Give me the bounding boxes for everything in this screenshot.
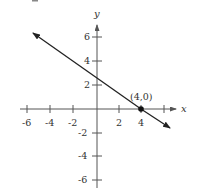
y-tick-label: -2 bbox=[78, 127, 87, 138]
graph-canvas: y x -6 -4 -2 2 4 6 4 2 -2 -4 -6 (4,0) bbox=[0, 0, 197, 196]
x-tick-label: -6 bbox=[22, 117, 31, 128]
x-tick-label: -2 bbox=[68, 117, 77, 128]
clipped-text-fragment bbox=[32, 0, 38, 2]
y-tick-label: 4 bbox=[84, 55, 90, 66]
line-lower-segment bbox=[141, 109, 170, 128]
point-4-0 bbox=[138, 106, 144, 112]
coordinate-graph: y x -6 -4 -2 2 4 6 4 2 -2 -4 -6 (4,0) bbox=[0, 0, 197, 196]
point-label: (4,0) bbox=[130, 91, 153, 102]
y-tick-label: 6 bbox=[84, 31, 90, 42]
x-tick-label: 4 bbox=[138, 117, 144, 128]
y-axis bbox=[92, 25, 102, 188]
y-tick-label: -4 bbox=[78, 150, 87, 161]
x-tick-label: -4 bbox=[45, 117, 54, 128]
y-axis-label: y bbox=[93, 8, 100, 19]
y-tick-label: -6 bbox=[78, 174, 87, 185]
line-upper-segment bbox=[33, 33, 141, 109]
x-axis bbox=[20, 105, 176, 113]
x-tick-label: 2 bbox=[116, 117, 122, 128]
x-axis-label: x bbox=[181, 103, 187, 114]
y-tick-label: 2 bbox=[84, 79, 90, 90]
